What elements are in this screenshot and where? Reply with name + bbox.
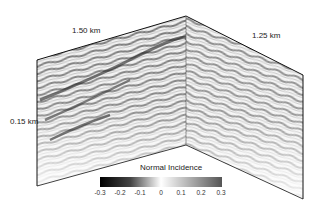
- colorbar-tick: -0.3: [94, 189, 105, 196]
- depth-label: 0.15 km: [10, 117, 38, 126]
- left-panel: [37, 16, 186, 186]
- left-panel-length-label: 1.50 km: [72, 26, 100, 35]
- right-panel: [186, 16, 303, 199]
- colorbar-tick: -0.1: [134, 189, 145, 196]
- colorbar-title: Normal Incidence: [140, 163, 202, 172]
- colorbar-tick: 0.1: [176, 189, 185, 196]
- colorbar-tick: 0.3: [216, 189, 225, 196]
- colorbar-tick: 0: [159, 189, 163, 196]
- colorbar-tick: 0.2: [196, 189, 205, 196]
- colorbar-tick: -0.2: [114, 189, 125, 196]
- right-panel-length-label: 1.25 km: [252, 31, 280, 40]
- colorbar: [100, 177, 222, 187]
